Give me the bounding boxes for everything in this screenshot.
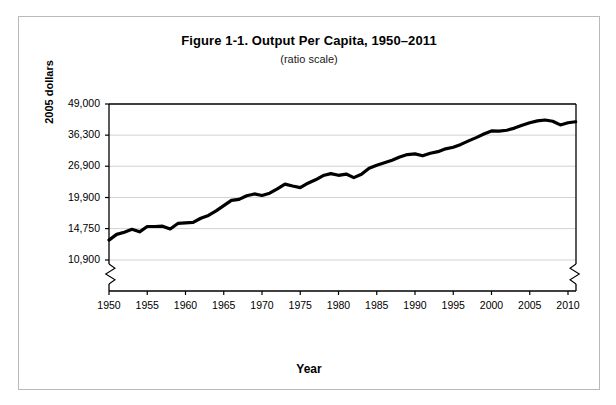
- gridlines: [109, 104, 576, 260]
- plot-area: [19, 17, 601, 391]
- figure-border: Figure 1-1. Output Per Capita, 1950–2011…: [18, 16, 600, 390]
- data-line-series: [109, 120, 576, 240]
